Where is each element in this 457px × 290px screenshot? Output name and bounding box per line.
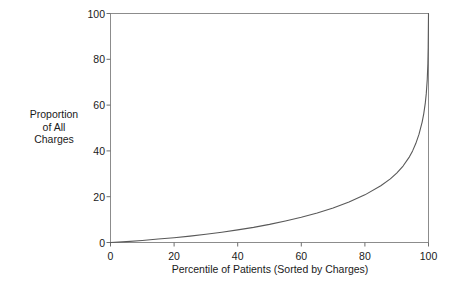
- x-axis-ticks: [111, 243, 429, 247]
- x-axis-title: Percentile of Patients (Sorted by Charge…: [110, 263, 430, 275]
- x-axis-tick-label: 0: [108, 251, 114, 262]
- x-axis-tick-label: 60: [295, 251, 307, 262]
- x-axis-tick-label: 40: [232, 251, 244, 262]
- plot-frame: [111, 14, 429, 243]
- y-axis-tick-label: 40: [60, 146, 105, 157]
- x-axis-tick-label: 20: [168, 251, 180, 262]
- y-axis-tick-label: 100: [60, 8, 105, 19]
- y-axis-ticks: [107, 14, 111, 243]
- y-axis-title: Proportionof AllCharges: [14, 108, 94, 146]
- y-axis-title-line: Proportion: [14, 108, 94, 121]
- x-axis-tick-label: 100: [420, 251, 438, 262]
- x-axis-tick-label: 80: [359, 251, 371, 262]
- y-axis-tick-label: 80: [60, 54, 105, 65]
- chart-figure: 020406080100 020406080100 Proportionof A…: [0, 0, 457, 290]
- y-axis-title-line: of All: [14, 121, 94, 134]
- y-axis-tick-label: 20: [60, 191, 105, 202]
- y-axis-title-line: Charges: [14, 133, 94, 146]
- y-axis-tick-label: 0: [60, 237, 105, 248]
